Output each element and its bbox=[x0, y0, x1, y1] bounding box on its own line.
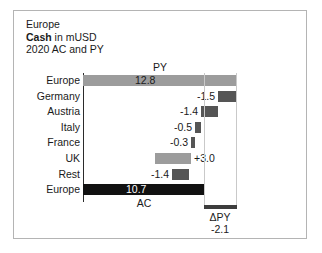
category-label-uk-5: UK bbox=[13, 152, 80, 164]
bar-europe-0 bbox=[83, 75, 236, 86]
delta-py-value: -2.1 bbox=[190, 223, 250, 235]
waterfall-plot: PYEurope12.8Germany-1.5Austria-1.4Italy-… bbox=[14, 11, 307, 239]
bar-germany-1 bbox=[218, 91, 236, 102]
delta-connector-left bbox=[204, 73, 205, 207]
category-label-austria-2: Austria bbox=[13, 105, 80, 117]
delta-connector-right bbox=[236, 73, 237, 207]
chart-frame: Europe Cash in mUSD 2020 AC and PY PYEur… bbox=[13, 10, 307, 239]
bar-rest-6 bbox=[172, 169, 189, 180]
bar-france-4 bbox=[191, 137, 195, 148]
py-axis-caption: PY bbox=[145, 61, 175, 73]
category-label-rest-6: Rest bbox=[13, 168, 80, 180]
value-label-austria-2: -1.4 bbox=[180, 105, 198, 117]
value-axis-line bbox=[83, 73, 84, 202]
category-label-france-4: France bbox=[13, 136, 80, 148]
value-label-france-4: -0.3 bbox=[170, 136, 188, 148]
value-label-rest-6: -1.4 bbox=[151, 168, 169, 180]
bar-delta-py bbox=[204, 205, 237, 209]
ac-axis-caption: AC bbox=[129, 197, 159, 209]
delta-py-caption: ΔPY bbox=[190, 211, 250, 223]
category-label-europe-0: Europe bbox=[13, 74, 80, 86]
value-label-germany-1: -1.5 bbox=[197, 90, 215, 102]
category-label-germany-1: Germany bbox=[13, 90, 80, 102]
bar-uk-5 bbox=[155, 153, 191, 164]
value-label-europe-7: 10.7 bbox=[126, 183, 146, 195]
bar-italy-3 bbox=[195, 122, 201, 133]
value-label-europe-0: 12.8 bbox=[135, 74, 155, 86]
category-label-europe-7: Europe bbox=[13, 183, 80, 195]
value-label-italy-3: -0.5 bbox=[174, 121, 192, 133]
category-label-italy-3: Italy bbox=[13, 121, 80, 133]
